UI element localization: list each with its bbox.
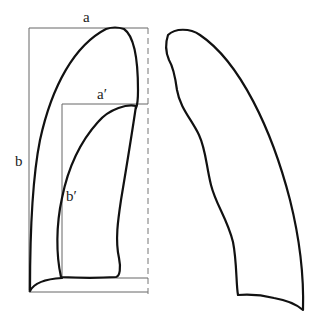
label-b-prime: b′ [66, 188, 77, 204]
label-a-prime: a′ [97, 86, 107, 102]
diagram-canvas: a a′ b b′ [0, 0, 322, 320]
left-lung-base-curve [30, 278, 62, 291]
label-b: b [15, 153, 23, 169]
left-lung-outer-outline [30, 28, 138, 291]
right-lung-outline [166, 30, 303, 310]
label-a: a [83, 9, 90, 25]
outer-box [29, 28, 148, 296]
